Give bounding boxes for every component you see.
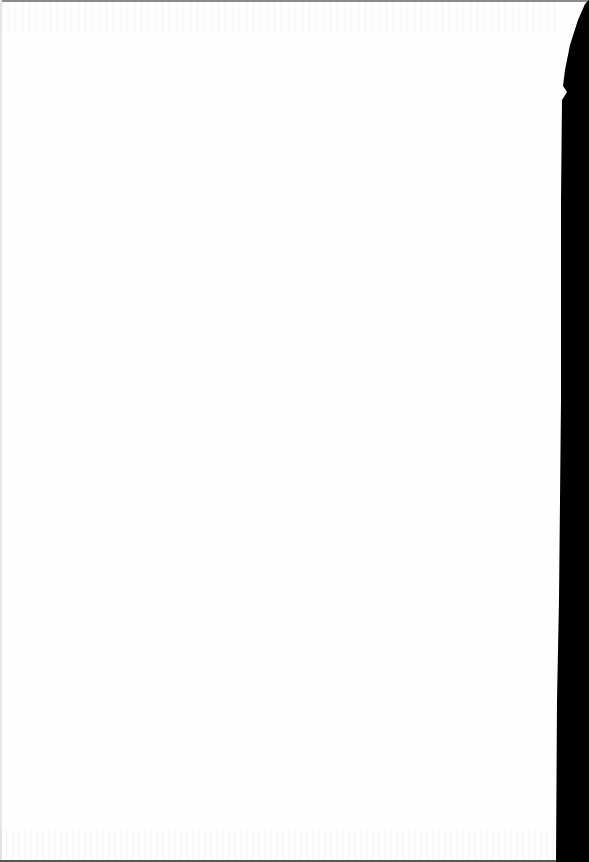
- blank-page: [0, 0, 589, 862]
- scanner-dark-edge: [0, 0, 589, 862]
